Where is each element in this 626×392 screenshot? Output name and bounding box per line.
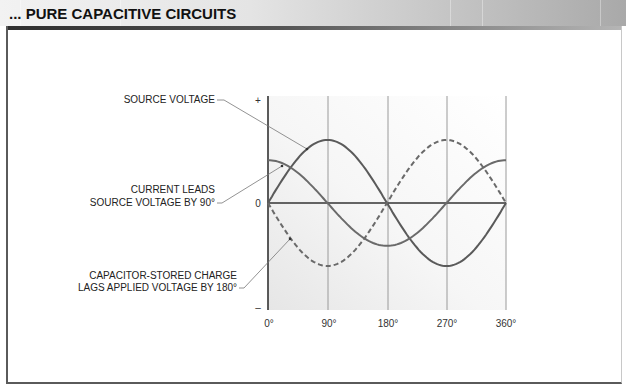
charge-label-line1: CAPACITOR-STORED CHARGE: [89, 270, 237, 281]
current-label-line2: SOURCE VOLTAGE BY 90°: [90, 197, 215, 208]
x-tick-90: 90°: [321, 318, 336, 329]
y-zero-label: 0: [255, 198, 261, 209]
phase-diagram: SOURCE VOLTAGE CURRENT LEADS SOURCE VOLT…: [0, 0, 626, 392]
y-minus-label: –: [255, 302, 261, 313]
charge-label-line2: LAGS APPLIED VOLTAGE BY 180°: [78, 282, 237, 293]
x-tick-0: 0°: [264, 318, 274, 329]
x-tick-270: 270°: [437, 318, 458, 329]
x-tick-180: 180°: [378, 318, 399, 329]
y-plus-label: +: [255, 95, 261, 106]
x-tick-360: 360°: [496, 318, 517, 329]
source-voltage-label: SOURCE VOLTAGE: [124, 94, 216, 105]
current-label-line1: CURRENT LEADS: [131, 184, 216, 195]
